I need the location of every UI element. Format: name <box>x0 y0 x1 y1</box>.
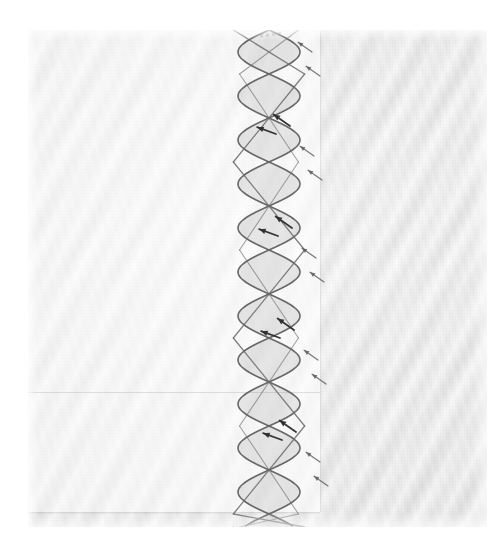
annotation-arrow-icon <box>312 374 326 384</box>
sheet-edge-fade-right <box>473 30 487 527</box>
helix-interior-shading <box>238 30 300 527</box>
annotation-arrow-icon <box>306 66 320 76</box>
annotation-arrow-icon <box>304 350 318 360</box>
helix-drawing <box>28 30 487 527</box>
sheet-edge-fade-top <box>28 30 487 40</box>
sheet-edge-fade-bottom <box>28 513 487 527</box>
image-title: Hand-drawn double helix with annotation … <box>0 0 1 1</box>
annotation-arrow-icon <box>300 146 314 156</box>
annotation-arrow-icon <box>280 421 296 432</box>
annotation-arrow-icon <box>302 248 316 258</box>
helix-strands <box>233 30 304 527</box>
annotation-arrow-icon <box>310 272 324 282</box>
helix-svg <box>28 30 487 527</box>
scanned-sheet <box>28 30 487 527</box>
annotation-arrow-icon <box>314 476 328 486</box>
scanned-image-canvas: Hand-drawn double helix with annotation … <box>0 0 503 547</box>
annotation-arrow-icon <box>308 170 322 180</box>
annotation-arrow-icon <box>306 452 320 462</box>
sheet-edge-fade-left <box>28 30 38 527</box>
